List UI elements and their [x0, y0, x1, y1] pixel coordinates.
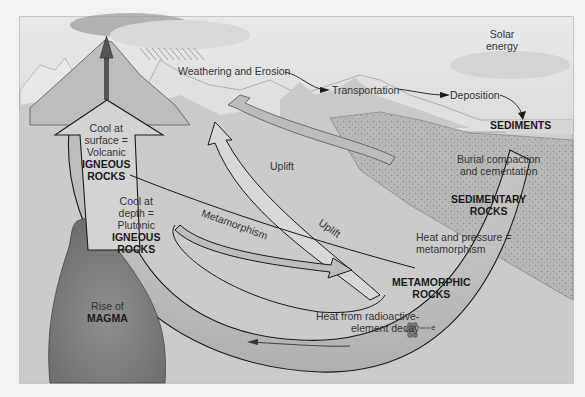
burial-line2: and cementation	[457, 165, 540, 177]
weathering-erosion-label: Weathering and Erosion	[178, 65, 290, 77]
solar-energy-label: Solar energy	[486, 28, 518, 52]
uplift-upper-label: Uplift	[270, 160, 294, 172]
storm-cloud	[110, 20, 250, 50]
rock-cycle-diagram: Solar energy Weathering and Erosion Tran…	[0, 0, 585, 397]
plutonic-line1: Cool at	[112, 195, 160, 207]
volcanic-line5: ROCKS	[82, 170, 130, 182]
rise-of-magma-label: Rise of MAGMA	[87, 300, 128, 324]
sediments-label: SEDIMENTS	[490, 119, 551, 131]
plutonic-line3: Plutonic	[112, 219, 160, 231]
sedimentary-line2: ROCKS	[451, 205, 526, 217]
radioactive-line2: element decay	[316, 322, 419, 334]
metamorphic-line2: ROCKS	[392, 288, 471, 300]
magma-line1: Rise of	[87, 300, 128, 312]
volcanic-line3: Volcanic	[82, 146, 130, 158]
radioactive-line1: Heat from radioactive-	[316, 310, 419, 322]
solar-energy-line2: energy	[486, 40, 518, 52]
solar-energy-line1: Solar	[486, 28, 518, 40]
volcanic-line1: Cool at	[82, 122, 130, 134]
volcanic-line2: surface =	[82, 134, 130, 146]
burial-compaction-label: Burial compaction and cementation	[457, 153, 540, 177]
volcanic-igneous-label: Cool at surface = Volcanic IGNEOUS ROCKS	[82, 122, 130, 182]
electron-label: e	[431, 322, 435, 334]
metamorphic-line1: METAMORPHIC	[392, 276, 471, 288]
burial-line1: Burial compaction	[457, 153, 540, 165]
heat-pressure-line1: Heat and pressure =	[416, 231, 511, 243]
heat-pressure-label: Heat and pressure = metamorphism	[416, 231, 511, 255]
heat-pressure-line2: metamorphism	[416, 243, 511, 255]
volcanic-line4: IGNEOUS	[82, 158, 130, 170]
radioactive-decay-label: Heat from radioactive- element decay	[316, 310, 419, 334]
magma-line2: MAGMA	[87, 312, 128, 324]
sedimentary-rocks-label: SEDIMENTARY ROCKS	[451, 193, 526, 217]
plutonic-igneous-label: Cool at depth = Plutonic IGNEOUS ROCKS	[112, 195, 160, 255]
transportation-label: Transportation	[332, 84, 399, 96]
plutonic-line4: IGNEOUS	[112, 231, 160, 243]
deposition-label: Deposition	[450, 89, 500, 101]
sedimentary-line1: SEDIMENTARY	[451, 193, 526, 205]
plutonic-line5: ROCKS	[112, 243, 160, 255]
solar-cloud	[450, 51, 570, 79]
plutonic-line2: depth =	[112, 207, 160, 219]
metamorphic-rocks-label: METAMORPHIC ROCKS	[392, 276, 471, 300]
